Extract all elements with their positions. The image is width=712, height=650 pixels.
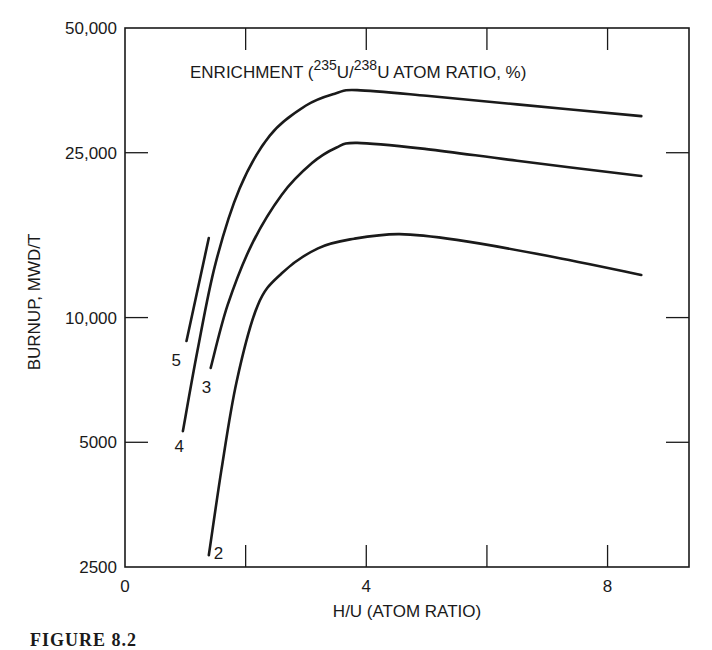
x-axis-label: H/U (ATOM RATIO) [333, 602, 481, 621]
curve-label-5: 5 [172, 351, 181, 370]
curve-enrichment-3 [211, 143, 642, 368]
x-tick-label: 8 [603, 577, 612, 596]
title-text: ENRICHMENT ( [190, 63, 314, 82]
title-superscript: 235 [313, 57, 337, 73]
y-axis-label: BURNUP, MWD/T [25, 234, 44, 371]
y-tick-label: 5000 [79, 433, 117, 452]
x-tick-label: 0 [120, 577, 129, 596]
curve-enrichment-2 [209, 234, 642, 555]
y-tick-label: 50,000 [65, 19, 117, 38]
curve-labels: 5432 [172, 351, 224, 563]
plot-border [125, 28, 689, 567]
curve-label-4: 4 [175, 437, 184, 456]
title-text: U ATOM RATIO, %) [377, 63, 526, 82]
axis-ticks: 0482500500010,00025,00050,000 [65, 19, 689, 596]
curve-label-3: 3 [202, 378, 211, 397]
curves [183, 90, 641, 555]
plot-frame [125, 28, 689, 567]
title-text: U/ [337, 63, 354, 82]
title-superscript: 238 [354, 57, 378, 73]
y-tick-label: 2500 [79, 558, 117, 577]
curve-label-2: 2 [214, 544, 223, 563]
x-tick-label: 4 [362, 577, 371, 596]
chart-title: ENRICHMENT (235U/238U ATOM RATIO, %) [190, 57, 526, 82]
y-tick-label: 25,000 [65, 144, 117, 163]
y-tick-label: 10,000 [65, 309, 117, 328]
curve-enrichment-5 [187, 238, 209, 341]
figure-caption: FIGURE 8.2 [30, 630, 137, 650]
